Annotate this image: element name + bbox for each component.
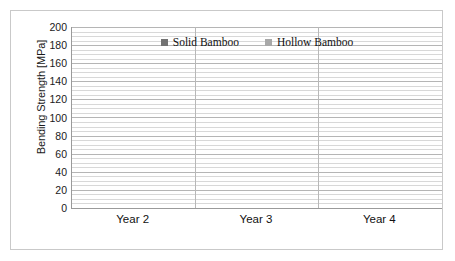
y-axis-tick: 120 <box>37 94 67 105</box>
x-axis-tick: Year 3 <box>194 213 317 225</box>
y-axis-tick: 20 <box>37 185 67 196</box>
y-axis-tick-labels: 200180160140120100806040200 <box>37 27 67 208</box>
chart-figure: Bending Strength [MPa] 20018016014012010… <box>0 0 455 261</box>
x-axis-tick-labels: Year 2Year 3Year 4 <box>71 213 441 225</box>
y-axis-tick: 140 <box>37 76 67 87</box>
y-axis-tick: 160 <box>37 58 67 69</box>
y-axis-tick: 180 <box>37 40 67 51</box>
chart-frame: Bending Strength [MPa] 20018016014012010… <box>10 10 443 250</box>
x-axis-tick: Year 2 <box>71 213 194 225</box>
y-axis-tick: 80 <box>37 130 67 141</box>
bar-group-year-4 <box>319 27 442 208</box>
plot-area: Solid BambooHollow Bamboo <box>71 27 442 209</box>
y-axis-tick: 100 <box>37 112 67 123</box>
bar-groups <box>72 27 442 208</box>
y-axis-tick: 60 <box>37 148 67 159</box>
y-axis-tick: 0 <box>37 203 67 214</box>
x-axis-tick: Year 4 <box>318 213 441 225</box>
bar-group-year-2 <box>72 27 195 208</box>
y-axis-tick: 200 <box>37 22 67 33</box>
y-axis-tick: 40 <box>37 167 67 178</box>
bar-group-year-3 <box>195 27 318 208</box>
